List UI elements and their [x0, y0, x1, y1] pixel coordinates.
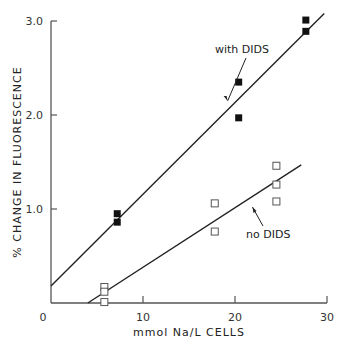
- open-square-marker: [273, 181, 280, 188]
- arrowhead-icon: [224, 96, 228, 101]
- x-axis-title: mmol Na/L CELLS: [133, 326, 245, 339]
- y-tick-label: 2.0: [26, 109, 44, 122]
- open-square-marker: [211, 228, 218, 235]
- open-square-marker: [101, 299, 108, 306]
- annotation-with-dids: with DIDS: [215, 43, 269, 56]
- filled-square-marker: [114, 219, 121, 226]
- open-square-marker: [273, 198, 280, 205]
- y-tick-label: 3.0: [26, 15, 44, 28]
- x-tick-label: 10: [136, 311, 150, 324]
- open-square-marker: [101, 288, 108, 295]
- chart: 1.02.03.00102030 with DIDSno DIDS mmol N…: [0, 0, 347, 347]
- filled-square-marker: [114, 210, 121, 217]
- x-tick-label: 30: [320, 311, 334, 324]
- y-axis-title: % CHANGE IN FLUORESCENCE: [11, 66, 24, 257]
- x-tick-label: 20: [228, 311, 242, 324]
- filled-square-marker: [302, 28, 309, 35]
- axes: 1.02.03.00102030: [26, 15, 335, 324]
- fit-lines: [51, 13, 324, 303]
- filled-square-marker: [302, 17, 309, 24]
- filled-square-marker: [235, 114, 242, 121]
- y-tick-label: 1.0: [26, 203, 44, 216]
- fit-line: [51, 13, 324, 286]
- x-tick-label: 0: [40, 311, 47, 324]
- open-square-marker: [273, 162, 280, 169]
- annotation-no-dids: no DIDS: [246, 228, 290, 241]
- open-square-marker: [211, 200, 218, 207]
- annotations: with DIDSno DIDS: [215, 43, 290, 241]
